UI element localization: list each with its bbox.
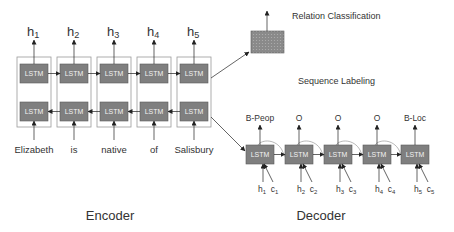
encoder-output-arrows bbox=[34, 40, 194, 64]
decoder-input-label: h2 c2 bbox=[297, 184, 317, 195]
encoder-output-label: h2 bbox=[67, 24, 79, 40]
encoder-output-label: h3 bbox=[107, 24, 119, 40]
encoder-title: Encoder bbox=[86, 208, 134, 223]
encoder-input-arrows bbox=[34, 121, 194, 140]
relation-classifier-box bbox=[251, 31, 284, 53]
decoder-input-label: h4 c4 bbox=[375, 184, 395, 195]
encoder-output-label: h1 bbox=[27, 24, 39, 40]
encoder-output-label: h5 bbox=[187, 24, 199, 40]
output-tag: O bbox=[374, 113, 381, 123]
output-tag: B-Peop bbox=[246, 113, 274, 123]
svg-text:LSTM: LSTM bbox=[406, 151, 425, 158]
decoder-title: Decoder bbox=[296, 208, 345, 223]
svg-text:LSTM: LSTM bbox=[368, 151, 387, 158]
decoder-row: LSTM LSTM LSTM LSTM LSTM bbox=[246, 125, 429, 182]
svg-text:LSTM: LSTM bbox=[290, 151, 309, 158]
input-word: native bbox=[101, 144, 126, 155]
decoder-input-label: h1 c1 bbox=[258, 184, 278, 195]
relation-classification-caption: Relation Classification bbox=[292, 11, 381, 21]
encoder-to-decoder-link bbox=[211, 117, 245, 151]
svg-text:LSTM: LSTM bbox=[185, 108, 204, 115]
output-tag: O bbox=[335, 113, 342, 123]
sequence-labeling-caption: Sequence Labeling bbox=[298, 76, 375, 86]
svg-text:LSTM: LSTM bbox=[65, 108, 84, 115]
svg-text:LSTM: LSTM bbox=[105, 70, 124, 77]
encoder-backward-row: LSTM LSTM LSTM LSTM LSTM bbox=[20, 102, 208, 121]
input-word: of bbox=[150, 144, 158, 155]
svg-text:LSTM: LSTM bbox=[65, 70, 84, 77]
output-tag: B-Loc bbox=[404, 113, 426, 123]
decoder-input-label: h3 c3 bbox=[336, 184, 356, 195]
svg-text:LSTM: LSTM bbox=[105, 108, 124, 115]
svg-text:LSTM: LSTM bbox=[25, 70, 44, 77]
input-word: Salisbury bbox=[174, 144, 213, 155]
svg-text:LSTM: LSTM bbox=[251, 151, 270, 158]
input-word: is bbox=[71, 144, 78, 155]
encoder-output-label: h4 bbox=[147, 24, 159, 40]
input-word: Elizabeth bbox=[14, 144, 53, 155]
svg-text:LSTM: LSTM bbox=[185, 70, 204, 77]
encoder-to-classifier-link bbox=[211, 52, 249, 78]
decoder-input-label: h5 c5 bbox=[414, 184, 434, 195]
svg-text:LSTM: LSTM bbox=[145, 70, 164, 77]
svg-text:LSTM: LSTM bbox=[145, 108, 164, 115]
svg-text:LSTM: LSTM bbox=[25, 108, 44, 115]
svg-text:LSTM: LSTM bbox=[329, 151, 348, 158]
encoder-forward-row: LSTM LSTM LSTM LSTM LSTM bbox=[20, 64, 208, 83]
output-tag: O bbox=[296, 113, 303, 123]
